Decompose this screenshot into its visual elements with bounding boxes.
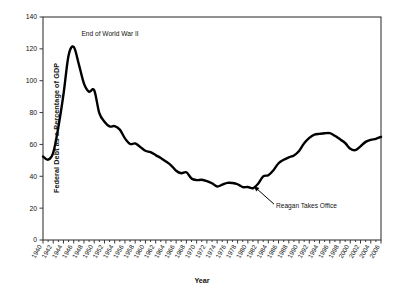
y-axis-title-host: Federal Debt as a Percentage of GDP [8,20,22,235]
federal-debt-line-chart: 020406080100120140 194019421944194619481… [0,0,404,291]
y-tick-label: 140 [26,13,38,20]
x-tick-label: 2006 [368,243,381,259]
y-axis-title: Federal Debt as a Percentage of GDP [52,28,61,228]
chart-canvas: 020406080100120140 194019421944194619481… [0,0,404,291]
annotation-label: Reagan Takes Office [276,202,337,210]
debt-line [43,46,381,188]
data-series-line [43,46,381,188]
annotation-label: End of World War II [81,30,138,37]
y-tick-label: 100 [26,77,38,84]
y-tick-label: 0 [33,236,37,243]
y-tick-label: 20 [29,205,37,212]
y-tick-label: 120 [26,45,38,52]
annotation-reagan-takes-office: Reagan Takes Office [254,186,337,210]
y-axis-ticks: 020406080100120140 [26,13,43,243]
x-axis-title: Year [0,276,404,285]
y-tick-label: 40 [29,173,37,180]
chart-root: 020406080100120140 194019421944194619481… [0,0,404,291]
y-tick-label: 60 [29,141,37,148]
x-axis-ticks: 1940194219441946194819501952195419561958… [30,240,381,259]
annotation-end-of-wwii: End of World War II [81,30,138,37]
y-tick-label: 80 [29,109,37,116]
